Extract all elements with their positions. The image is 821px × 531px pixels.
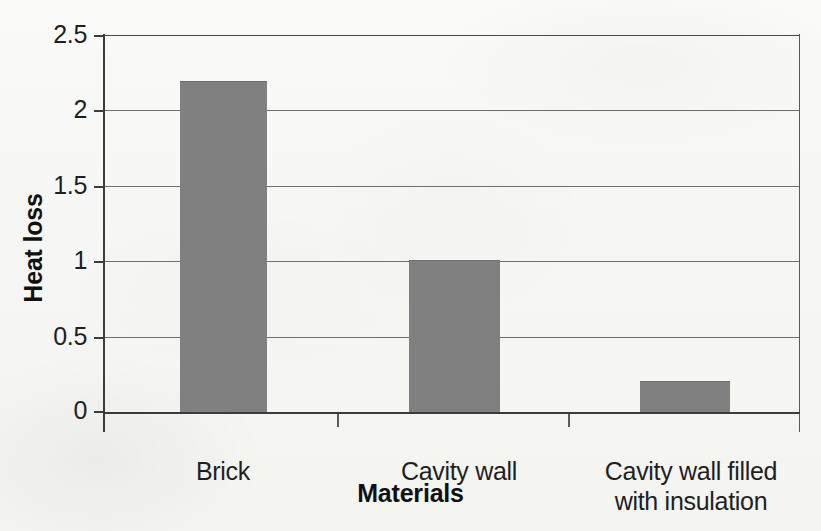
y-tick-label-1: 1 [73, 248, 87, 273]
y-tick-label-1-5: 1.5 [53, 173, 87, 198]
y-tick-1: 1 [94, 261, 103, 263]
y-tick-2: 2 [94, 110, 103, 112]
x-axis-title: Materials [0, 479, 821, 508]
x-tick-separator-1 [337, 414, 339, 427]
y-axis-title: Heat loss [16, 168, 50, 328]
y-tick-1-5: 1.5 [94, 186, 103, 188]
chart-page: Heat loss 2.5 2 1.5 1 0.5 0 [0, 0, 821, 531]
y-tick-2-5: 2.5 [94, 35, 103, 37]
y-tick-0-5: 0.5 [94, 337, 103, 339]
x-axis-line [103, 412, 800, 414]
y-tick-label-2-5: 2.5 [53, 22, 87, 47]
y-tick-0: 0 [94, 411, 103, 413]
y-tick-label-0-5: 0.5 [53, 324, 87, 349]
x-tick-separator-2 [568, 414, 570, 427]
plot-area: 2.5 2 1.5 1 0.5 0 [103, 35, 800, 412]
bar-cavity-wall-insulated[interactable] [640, 381, 730, 412]
gridline-2-5 [103, 35, 800, 36]
y-axis-line [103, 34, 105, 432]
y-axis-title-label: Heat loss [19, 193, 48, 302]
plot-right-border [799, 34, 800, 432]
bar-cavity-wall[interactable] [409, 260, 500, 412]
y-tick-label-0: 0 [73, 398, 87, 423]
bar-brick[interactable] [180, 81, 267, 412]
y-tick-label-2: 2 [73, 97, 87, 122]
